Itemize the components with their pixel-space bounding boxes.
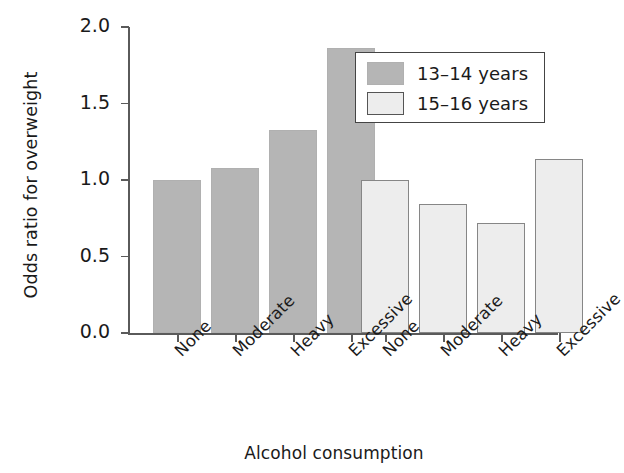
legend-item-0: 13–14 years bbox=[367, 60, 528, 86]
y-tick: 1.5 bbox=[121, 103, 129, 105]
y-tick: 0.5 bbox=[121, 256, 129, 258]
x-axis-title: Alcohol consumption bbox=[128, 443, 540, 463]
y-tick-label: 2.0 bbox=[80, 14, 110, 36]
y-tick-mark bbox=[121, 332, 129, 334]
y-axis-title: Odds ratio for overweight bbox=[21, 25, 41, 345]
y-tick-mark bbox=[121, 26, 129, 28]
bar bbox=[419, 204, 467, 333]
bar bbox=[153, 180, 201, 333]
legend-item-1: 15–16 years bbox=[367, 90, 528, 116]
y-tick: 2.0 bbox=[121, 26, 129, 28]
y-tick-label: 0.5 bbox=[80, 244, 110, 266]
legend-swatch-icon bbox=[367, 62, 404, 85]
legend-label: 15–16 years bbox=[417, 93, 528, 114]
y-tick-mark bbox=[121, 179, 129, 181]
bar bbox=[535, 159, 583, 333]
y-tick: 0.0 bbox=[121, 332, 129, 334]
legend-swatch-icon bbox=[367, 92, 404, 115]
bar bbox=[211, 168, 259, 333]
chart-legend: 13–14 years 15–16 years bbox=[355, 52, 545, 123]
y-tick-label: 0.0 bbox=[80, 320, 110, 342]
legend-label: 13–14 years bbox=[417, 63, 528, 84]
y-tick: 1.0 bbox=[121, 179, 129, 181]
y-tick-label: 1.0 bbox=[80, 167, 110, 189]
y-tick-mark bbox=[121, 256, 129, 258]
y-tick-label: 1.5 bbox=[80, 91, 110, 113]
y-tick-mark bbox=[121, 103, 129, 105]
